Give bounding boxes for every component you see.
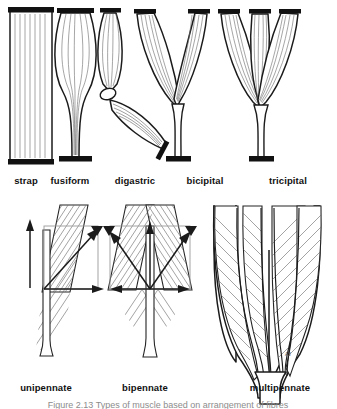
strap-belly bbox=[10, 11, 52, 161]
label-strap: strap bbox=[14, 175, 38, 186]
label-tricipital: tricipital bbox=[269, 175, 307, 186]
bicipital-tendon-left bbox=[134, 9, 156, 14]
digastric-tendon-top bbox=[100, 8, 121, 13]
fusiform-tendon-top bbox=[57, 8, 94, 13]
unipennate-vector-arrow-up bbox=[26, 219, 34, 231]
label-bicipital: bicipital bbox=[187, 175, 224, 186]
label-unipennate: unipennate bbox=[20, 382, 72, 393]
muscle-diagram-fusiform bbox=[55, 8, 96, 162]
digastric-intermediate-tendon-loop bbox=[99, 86, 118, 101]
bicipital-common-tendon bbox=[172, 104, 184, 157]
bicipital-tendon-bottom bbox=[166, 156, 191, 162]
muscle-diagram-strap bbox=[8, 7, 54, 165]
tricipital-tendon-bottom bbox=[249, 156, 274, 162]
muscle-diagram-bipennate bbox=[66, 196, 234, 360]
fusiform-tendon-bottom bbox=[59, 156, 92, 162]
label-bipennate: bipennate bbox=[122, 382, 168, 393]
tricipital-common-tendon bbox=[254, 105, 268, 157]
muscle-fibre-arrangement-figure: strap fusiform digastric bicipital trici… bbox=[0, 0, 337, 409]
tricipital-tendon-left bbox=[218, 9, 240, 14]
artist-signature: AJ bbox=[285, 351, 291, 357]
muscle-diagram-multipennate: AJ bbox=[206, 204, 330, 404]
strap-tendon-top bbox=[8, 7, 54, 13]
label-fusiform: fusiform bbox=[51, 175, 90, 186]
bicipital-tendon-right bbox=[188, 9, 210, 14]
digastric-upper-belly bbox=[98, 13, 122, 92]
figure-caption: Figure 2.13 Types of muscle based on arr… bbox=[48, 400, 289, 409]
label-multipennate: multipennate bbox=[250, 382, 310, 393]
tricipital-tendon-middle bbox=[249, 9, 271, 14]
label-digastric: digastric bbox=[115, 175, 156, 186]
strap-tendon-bottom bbox=[8, 159, 54, 165]
tricipital-tendon-right bbox=[279, 9, 301, 14]
muscle-diagram-tricipital bbox=[218, 9, 301, 162]
